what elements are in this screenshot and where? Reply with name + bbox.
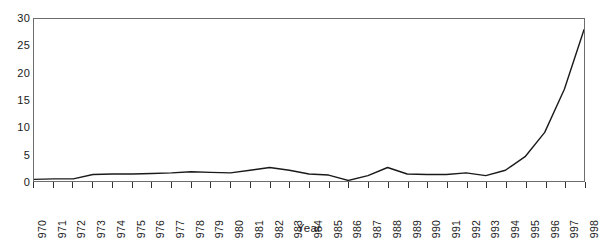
x-axis-tick-label: 1998 bbox=[589, 220, 600, 239]
data-series-line bbox=[34, 19, 584, 181]
line-chart: 051015202530 197019711972197319741975197… bbox=[0, 0, 601, 239]
y-axis-tick-label: 15 bbox=[2, 95, 30, 106]
x-axis-tick bbox=[585, 182, 586, 188]
y-axis-tick-label: 30 bbox=[2, 13, 30, 24]
plot-area bbox=[33, 18, 585, 182]
y-axis-tick-label: 25 bbox=[2, 40, 30, 51]
x-axis-title: Year bbox=[33, 221, 585, 235]
x-axis-tick-labels: 1970197119721973197419751976197719781979… bbox=[33, 188, 585, 222]
y-axis-tick-label: 5 bbox=[2, 149, 30, 160]
y-axis-tick-label: 0 bbox=[2, 177, 30, 188]
y-axis-tick-labels: 051015202530 bbox=[0, 0, 30, 239]
y-axis-tick-label: 20 bbox=[2, 67, 30, 78]
y-axis-tick-label: 10 bbox=[2, 122, 30, 133]
